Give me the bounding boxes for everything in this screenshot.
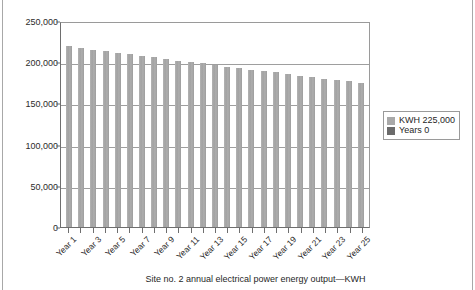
chart-caption: Site no. 2 annual electrical power energ…	[0, 274, 475, 284]
x-axis-tick	[129, 228, 130, 233]
x-axis-tick-label: Year 17	[247, 235, 274, 262]
bar	[297, 76, 303, 227]
bar-slot	[343, 23, 355, 227]
bar-slot	[270, 23, 282, 227]
x-axis-tick	[105, 228, 106, 233]
bar-slot	[306, 23, 318, 227]
legend-swatch	[387, 117, 395, 125]
bar-slot	[258, 23, 270, 227]
x-axis-tick	[301, 228, 302, 233]
bar-slot	[318, 23, 330, 227]
bar	[188, 62, 194, 227]
y-axis-tick-label: 150,000	[2, 100, 58, 109]
bar	[127, 54, 133, 227]
bar-slot	[75, 23, 87, 227]
bar-slot	[172, 23, 184, 227]
bar	[115, 53, 121, 227]
bar-slot	[233, 23, 245, 227]
x-axis-tick-label: Year 25	[345, 235, 372, 262]
bar	[236, 68, 242, 227]
y-axis-tick-label: 200,000	[2, 59, 58, 68]
x-axis-tick	[80, 228, 81, 233]
x-axis-tick-label: Year 19	[272, 235, 299, 262]
bar	[151, 57, 157, 227]
x-axis-tick-label: Year 21	[296, 235, 323, 262]
bar	[163, 59, 169, 227]
y-axis-tick-label: 250,000	[2, 18, 58, 27]
bar	[139, 56, 145, 227]
x-axis-tick	[337, 228, 338, 233]
x-axis-tick	[276, 228, 277, 233]
bar	[78, 48, 84, 227]
bar	[273, 72, 279, 227]
bar	[66, 46, 72, 227]
bar-slot	[112, 23, 124, 227]
bar-slot	[355, 23, 367, 227]
x-axis-tick-label: Year 1	[55, 235, 78, 258]
bar-slot	[330, 23, 342, 227]
x-axis-tick	[191, 228, 192, 233]
legend-item: KWH 225,000	[387, 116, 455, 125]
bar	[200, 63, 206, 227]
x-axis-tick-label: Year 5	[104, 235, 127, 258]
x-axis-tick-label: Year 13	[198, 235, 225, 262]
bar	[212, 65, 218, 227]
x-axis-tick	[288, 228, 289, 233]
y-axis-tick-label: 100,000	[2, 141, 58, 150]
bar-slot	[221, 23, 233, 227]
plot-area	[60, 22, 370, 228]
legend-item: Years 0	[387, 126, 455, 135]
x-axis-tick	[264, 228, 265, 233]
x-axis-tick-label: Year 15	[223, 235, 250, 262]
x-axis-tick	[313, 228, 314, 233]
bar	[285, 74, 291, 227]
bar	[90, 50, 96, 227]
x-axis-tick	[142, 228, 143, 233]
x-axis-tick-label: Year 3	[79, 235, 102, 258]
bar	[309, 77, 315, 227]
bar-slot	[294, 23, 306, 227]
bar-slot	[136, 23, 148, 227]
x-axis-tick	[68, 228, 69, 233]
bar	[321, 79, 327, 228]
bar-slot	[124, 23, 136, 227]
bar-slot	[197, 23, 209, 227]
x-axis-tick-label: Year 23	[321, 235, 348, 262]
bar-slot	[160, 23, 172, 227]
y-axis-tick-label: 0	[2, 224, 58, 233]
page-rule-right	[472, 0, 473, 290]
x-axis-tick	[178, 228, 179, 233]
bar	[103, 51, 109, 227]
x-axis-tick-label: Year 9	[153, 235, 176, 258]
x-axis-tick	[325, 228, 326, 233]
bar	[224, 67, 230, 227]
bar	[261, 71, 267, 227]
x-axis-tick	[350, 228, 351, 233]
bar-slot	[185, 23, 197, 227]
bar-series	[61, 23, 369, 227]
x-axis-tick	[252, 228, 253, 233]
x-axis-tick-label: Year 11	[174, 235, 200, 261]
x-axis-tick	[239, 228, 240, 233]
y-axis-tick-label: 50,000	[2, 182, 58, 191]
legend-label: KWH 225,000	[399, 116, 455, 125]
bar-slot	[209, 23, 221, 227]
x-axis-tick	[227, 228, 228, 233]
bar	[175, 61, 181, 227]
x-axis-tick	[93, 228, 94, 233]
bar	[334, 80, 340, 227]
bar-slot	[282, 23, 294, 227]
x-axis-tick	[154, 228, 155, 233]
bar-slot	[63, 23, 75, 227]
x-axis: Year 1Year 3Year 5Year 7Year 9Year 11Yea…	[60, 228, 370, 274]
x-axis-tick	[215, 228, 216, 233]
bar-slot	[99, 23, 111, 227]
x-axis-tick	[117, 228, 118, 233]
chart-figure: 050,000100,000150,000200,000250,000 Year…	[0, 0, 475, 290]
legend-label: Years 0	[399, 126, 429, 135]
bar-slot	[148, 23, 160, 227]
y-axis: 050,000100,000150,000200,000250,000	[0, 22, 58, 228]
x-axis-tick	[362, 228, 363, 233]
bar	[248, 70, 254, 227]
x-axis-tick-label: Year 7	[128, 235, 151, 258]
